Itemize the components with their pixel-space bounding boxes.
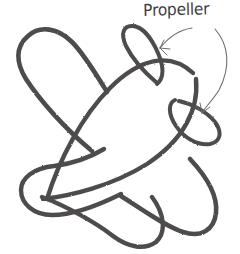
sketch-figure: Propeller (0, 0, 240, 254)
upper-propeller-loop (123, 26, 162, 84)
upper-left-wing (18, 29, 107, 151)
airplane-sketch-canvas (0, 0, 240, 254)
fuselage-lower-curve (43, 79, 196, 199)
leader-line-right (202, 29, 227, 113)
leader-line-upper (160, 28, 192, 48)
propeller-label: Propeller (143, 0, 210, 21)
